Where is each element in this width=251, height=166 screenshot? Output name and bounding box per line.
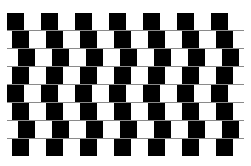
dark-tile (46, 31, 63, 48)
wall-row (7, 103, 240, 120)
dark-tile (216, 103, 233, 120)
dark-tile (148, 103, 165, 120)
dark-tile (109, 13, 126, 30)
dark-tile (120, 121, 137, 138)
dark-tile (52, 121, 69, 138)
dark-tile (177, 85, 194, 102)
wall-row (7, 139, 240, 156)
dark-tile (12, 67, 29, 84)
dark-tile (182, 103, 199, 120)
dark-tile (154, 121, 171, 138)
dark-tile (80, 67, 97, 84)
dark-tile (46, 67, 63, 84)
dark-tile (18, 49, 35, 66)
wall-row (7, 121, 240, 138)
dark-tile (222, 121, 239, 138)
dark-tile (80, 31, 97, 48)
dark-tile (75, 13, 92, 30)
dark-tile (154, 49, 171, 66)
dark-tile (12, 139, 29, 156)
dark-tile (7, 85, 24, 102)
dark-tile (182, 31, 199, 48)
dark-tile (41, 13, 58, 30)
dark-tile (148, 139, 165, 156)
dark-tile (86, 49, 103, 66)
dark-tile (52, 49, 69, 66)
dark-tile (80, 139, 97, 156)
dark-tile (46, 103, 63, 120)
dark-tile (12, 103, 29, 120)
dark-tile (148, 31, 165, 48)
dark-tile (182, 67, 199, 84)
dark-tile (188, 121, 205, 138)
dark-tile (182, 139, 199, 156)
dark-tile (143, 13, 160, 30)
dark-tile (7, 13, 24, 30)
wall-row (7, 13, 240, 30)
dark-tile (114, 31, 131, 48)
dark-tile (41, 85, 58, 102)
dark-tile (216, 139, 233, 156)
dark-tile (216, 67, 233, 84)
dark-tile (216, 31, 233, 48)
dark-tile (148, 67, 165, 84)
dark-tile (211, 13, 228, 30)
dark-tile (114, 67, 131, 84)
dark-tile (18, 121, 35, 138)
dark-tile (109, 85, 126, 102)
dark-tile (120, 49, 137, 66)
wall-row (7, 67, 240, 84)
dark-tile (86, 121, 103, 138)
wall-row (7, 85, 240, 102)
cafe-wall-illusion (0, 0, 251, 166)
wall-row (7, 31, 240, 48)
dark-tile (46, 139, 63, 156)
dark-tile (177, 13, 194, 30)
dark-tile (12, 31, 29, 48)
dark-tile (222, 49, 239, 66)
dark-tile (114, 139, 131, 156)
wall-row (7, 49, 240, 66)
dark-tile (188, 49, 205, 66)
dark-tile (143, 85, 160, 102)
dark-tile (80, 103, 97, 120)
dark-tile (75, 85, 92, 102)
dark-tile (211, 85, 228, 102)
dark-tile (114, 103, 131, 120)
